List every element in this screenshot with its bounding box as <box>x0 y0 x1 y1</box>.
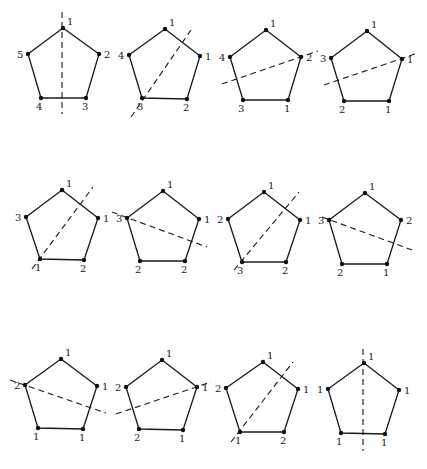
vertex-dot <box>26 52 30 56</box>
vertex-dot <box>296 387 300 391</box>
vertex-label: 1 <box>79 432 85 443</box>
vertex-dot <box>125 216 129 220</box>
vertex-label: 1 <box>303 384 309 395</box>
vertex-label: 2 <box>217 214 223 225</box>
vertex-dot <box>400 57 404 61</box>
vertex-dot <box>327 218 331 222</box>
vertex-dot <box>399 218 403 222</box>
vertex-dot <box>39 96 43 100</box>
pentagon-4: 11123 <box>320 19 418 115</box>
vertex-dot <box>262 190 266 194</box>
vertex-label: 3 <box>116 213 122 224</box>
vertex-label: 1 <box>102 381 108 392</box>
vertex-label: 3 <box>237 265 243 276</box>
vertex-label: 2 <box>115 382 121 393</box>
vertex-dot <box>298 218 302 222</box>
vertex-label: 2 <box>134 432 140 443</box>
vertex-label: 1 <box>202 382 208 393</box>
vertex-label: 3 <box>318 215 324 226</box>
vertex-label: 1 <box>371 19 377 30</box>
vertex-dot <box>60 188 64 192</box>
vertex-dot <box>224 386 228 390</box>
vertex-label: 3 <box>238 103 244 114</box>
vertex-dot <box>195 385 199 389</box>
reflection-axis-line <box>324 53 418 85</box>
vertex-dot <box>24 215 28 219</box>
vertex-dot <box>160 358 164 362</box>
pentagon-outline <box>28 28 99 98</box>
vertex-dot <box>342 99 346 103</box>
vertex-label: 1 <box>65 347 71 358</box>
vertex-dot <box>339 431 343 435</box>
vertex-label: 1 <box>385 104 391 115</box>
vertex-label: 2 <box>104 49 110 60</box>
vertex-dot <box>137 427 141 431</box>
pentagon-6: 11223 <box>112 179 210 275</box>
vertex-dot <box>36 426 40 430</box>
vertex-dot <box>84 96 88 100</box>
vertex-label: 1 <box>103 213 109 224</box>
vertex-label: 1 <box>166 348 172 359</box>
vertex-label: 1 <box>35 262 41 273</box>
vertex-dot <box>365 29 369 33</box>
vertex-label: 2 <box>80 263 86 274</box>
vertex-label: 1 <box>336 436 342 447</box>
pentagon-8: 12123 <box>318 181 415 278</box>
vertex-label: 2 <box>181 264 187 275</box>
vertex-label: 3 <box>137 101 143 112</box>
vertex-dot <box>161 189 165 193</box>
vertex-label: 2 <box>215 383 221 394</box>
vertex-dot <box>95 384 99 388</box>
vertex-dot <box>387 99 391 103</box>
pentagon-outline <box>226 362 298 432</box>
pentagon-outline <box>331 31 402 101</box>
vertex-dot <box>127 53 131 57</box>
vertex-label: 1 <box>33 431 39 442</box>
vertex-label: 1 <box>270 18 276 29</box>
vertex-dot <box>61 26 65 30</box>
vertex-label: 1 <box>317 384 323 395</box>
vertex-label: 1 <box>66 178 72 189</box>
pentagon-symmetry-figure: 1234511234121341112311213112231123212123… <box>0 0 427 469</box>
vertex-label: 3 <box>82 101 88 112</box>
vertex-dot <box>264 28 268 32</box>
vertex-dot <box>140 96 144 100</box>
diagram-canvas: 1234511234121341112311213112231123212123… <box>0 0 427 469</box>
pentagon-outline <box>129 29 200 99</box>
reflection-axis-line <box>222 51 318 84</box>
vertex-label: 3 <box>320 53 326 64</box>
pentagon-outline <box>127 191 199 261</box>
reflection-axis-line <box>32 187 93 269</box>
vertex-dot <box>362 361 366 365</box>
pentagon-outline <box>25 359 97 429</box>
vertex-dot <box>124 385 128 389</box>
reflection-axis-line <box>234 192 299 270</box>
vertex-dot <box>284 260 288 264</box>
vertex-dot <box>282 430 286 434</box>
vertex-label: 1 <box>305 215 311 226</box>
pentagon-outline <box>228 192 300 262</box>
vertex-dot <box>23 383 27 387</box>
vertex-dot <box>226 217 230 221</box>
vertex-label: 1 <box>167 179 173 190</box>
vertex-label: 1 <box>67 16 73 27</box>
vertex-dot <box>329 56 333 60</box>
vertex-label: 3 <box>15 212 21 223</box>
vertex-dot <box>286 98 290 102</box>
vertex-dot <box>198 54 202 58</box>
vertex-label: 1 <box>368 351 374 362</box>
vertex-label: 1 <box>383 267 389 278</box>
pentagon-9: 11112 <box>10 347 108 443</box>
vertex-dot <box>241 98 245 102</box>
vertex-label: 2 <box>406 215 412 226</box>
vertex-dot <box>97 52 101 56</box>
vertex-label: 2 <box>306 52 312 63</box>
vertex-dot <box>240 260 244 264</box>
pentagon-3: 12134 <box>219 18 318 114</box>
vertex-label: 4 <box>36 101 42 112</box>
vertex-label: 1 <box>407 54 413 65</box>
pentagon-12: 11111 <box>317 349 410 451</box>
vertex-label: 1 <box>235 435 241 446</box>
vertex-dot <box>397 388 401 392</box>
pentagon-outline <box>329 193 401 264</box>
